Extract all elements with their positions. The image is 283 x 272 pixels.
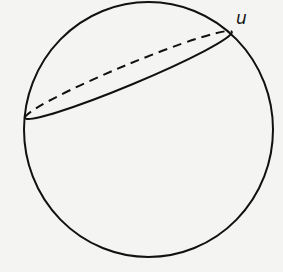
great-circle-back-dashed	[21, 23, 232, 118]
great-circle-front-solid	[25, 32, 236, 127]
sphere-diagram: u	[0, 0, 283, 272]
point-label-u: u	[236, 8, 247, 28]
sphere-outline	[24, 2, 273, 257]
